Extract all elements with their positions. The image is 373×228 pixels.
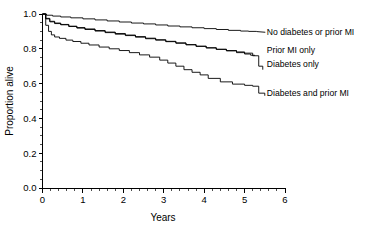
x-tick-label: 2 [121,194,126,205]
x-tick-label: 1 [80,194,85,205]
x-tick-label: 6 [282,194,287,205]
y-tick-label: 0.2 [23,148,36,159]
survival-chart-svg: 0.00.20.40.60.81.0 0123456 Years Proport… [0,0,373,228]
y-tick-label: 0.6 [23,78,36,89]
y-tick-label: 1.0 [23,8,36,19]
x-tick-label: 0 [40,194,45,205]
y-tick-label: 0.4 [23,113,36,124]
y-tick-label: 0.0 [23,182,36,193]
y-axis-title: Proportion alive [4,66,15,136]
series-label-diabetes-only: Diabetes only [267,59,320,69]
series-label-no-diabetes-or-prior-mi: No diabetes or prior MI [267,27,354,37]
series-label-prior-mi-only: Prior MI only [267,45,316,55]
series-label-diabetes-and-prior-mi: Diabetes and prior MI [267,88,349,98]
x-tick-label: 5 [242,194,247,205]
x-tick-label: 4 [202,194,207,205]
x-tick-label: 3 [161,194,166,205]
survival-chart-figure: 0.00.20.40.60.81.0 0123456 Years Proport… [0,0,373,228]
x-axis-title: Years [150,212,175,223]
y-tick-label: 0.8 [23,43,36,54]
